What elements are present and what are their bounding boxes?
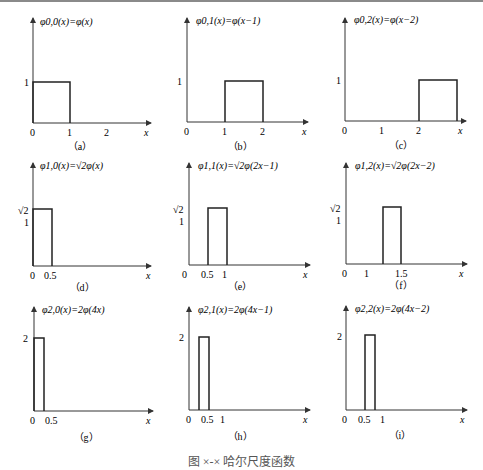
box-function [365,335,375,410]
xtick-2: 2 [104,127,109,138]
xtick-0: 0 [342,414,347,425]
plot-title: φ0,2(x)=φ(x−2) [354,14,419,26]
haar-plot-d: φ1,0(x)=√2φ(x) √2 1 0 0.5 x （d） [0,150,160,300]
xtick-0: 0 [186,414,191,425]
box-function [34,338,44,411]
ytick-1: 1 [24,217,29,228]
xtick-1: 1 [364,268,369,279]
xtick-0-5: 0.5 [201,269,214,280]
plot-title: φ0,0(x)=φ(x) [40,16,93,28]
panel-c: φ0,2(x)=φ(x−2) 1 0 1 2 x （c） [320,0,483,150]
xtick-0-5: 0.5 [201,414,214,425]
ytick-1: 1 [24,77,29,88]
panel-e: φ1,1(x)=√2φ(2x−1) √2 1 0 0.5 1 x （e） [160,150,320,300]
xtick-0-5: 0.5 [358,414,371,425]
ytick-sqrt2: √2 [173,204,184,215]
plot-title: φ2,0(x)=2φ(4x) [42,304,105,316]
plot-title: φ2,1(x)=2φ(4x−1) [198,304,273,316]
box-function [419,80,457,121]
panel-f: φ1,2(x)=√2φ(2x−2) √2 1 0 1 1.5 x （f） [320,150,483,300]
ytick-sqrt2: √2 [330,203,341,214]
xtick-0: 0 [30,415,35,426]
panel-caption: （h） [228,431,253,442]
xtick-0: 0 [30,127,35,138]
x-label: x [302,414,308,425]
box-function [383,207,401,264]
plot-title: φ1,2(x)=√2φ(2x−2) [355,160,435,172]
x-label: x [145,415,151,426]
xtick-1: 1 [67,127,72,138]
haar-plot-g: φ2,0(x)=2φ(4x) 2 0 0.5 x （g） [0,300,160,461]
xtick-2: 2 [260,126,265,137]
xtick-1: 1 [220,414,225,425]
haar-plot-e: φ1,1(x)=√2φ(2x−1) √2 1 0 0.5 1 x （e） [160,150,320,300]
x-label: x [301,126,307,137]
x-label: x [458,268,464,279]
xtick-1-5: 1.5 [395,268,408,279]
panel-h: φ2,1(x)=2φ(4x−1) 2 0 0.5 1 x （h） [160,300,320,461]
ytick-1: 1 [177,76,182,87]
panel-caption: （i） [389,430,412,441]
xtick-1: 1 [380,414,385,425]
haar-plot-b: φ0,1(x)=φ(x−1) 1 0 1 2 x （b） [160,0,320,150]
box-function [208,208,227,265]
x-label: x [143,127,149,138]
panel-a: φ0,0(x)=φ(x) 1 0 1 2 x （a） [0,0,160,150]
x-label: x [457,125,463,136]
plot-title: φ0,1(x)=φ(x−1) [196,15,261,27]
ytick-1: 1 [336,75,341,86]
ytick-sqrt2: √2 [18,205,29,216]
xtick-0: 0 [182,269,187,280]
figure-caption: 图 ×-× 哈尔尺度函数 [0,452,483,470]
x-label: x [459,414,465,425]
haar-plot-f: φ1,2(x)=√2φ(2x−2) √2 1 0 1 1.5 x （f） [320,150,483,300]
box-function [33,82,70,123]
plot-title: φ1,0(x)=√2φ(x) [40,160,104,172]
panel-g: φ2,0(x)=2φ(4x) 2 0 0.5 x （g） [0,300,160,461]
haar-plot-h: φ2,1(x)=2φ(4x−1) 2 0 0.5 1 x （h） [160,300,320,461]
xtick-0: 0 [342,125,347,136]
box-function [199,337,209,410]
xtick-0-5: 0.5 [45,415,58,426]
xtick-2: 2 [416,125,421,136]
xtick-0: 0 [342,268,347,279]
haar-plot-a: φ0,0(x)=φ(x) 1 0 1 2 x （a） [0,0,160,150]
box-function [225,81,263,122]
ytick-1: 1 [179,216,184,227]
xtick-0: 0 [30,270,35,281]
plot-title: φ2,2(x)=2φ(4x−2) [355,303,430,315]
panel-caption: （e） [228,281,252,292]
x-label: x [145,270,151,281]
xtick-1: 1 [379,125,384,136]
panel-b: φ0,1(x)=φ(x−1) 1 0 1 2 x （b） [160,0,320,150]
panel-caption: （d） [70,282,95,293]
xtick-0: 0 [184,126,189,137]
box-function [33,209,52,266]
panel-d: φ1,0(x)=√2φ(x) √2 1 0 0.5 x （d） [0,150,160,300]
ytick-2: 2 [23,333,28,344]
plot-title: φ1,1(x)=√2φ(2x−1) [198,160,278,172]
ytick-2: 2 [179,332,184,343]
panel-caption: （f） [389,280,412,291]
panel-caption: （g） [74,432,99,443]
xtick-1: 1 [222,269,227,280]
ytick-2: 2 [337,331,342,342]
xtick-1: 1 [222,126,227,137]
haar-plot-i: φ2,2(x)=2φ(4x−2) 2 0 0.5 1 x （i） [320,300,483,461]
ytick-1: 1 [336,215,341,226]
xtick-0-5: 0.5 [44,270,57,281]
x-label: x [302,269,308,280]
haar-plot-c: φ0,2(x)=φ(x−2) 1 0 1 2 x （c） [320,0,483,150]
panel-i: φ2,2(x)=2φ(4x−2) 2 0 0.5 1 x （i） [320,300,483,461]
